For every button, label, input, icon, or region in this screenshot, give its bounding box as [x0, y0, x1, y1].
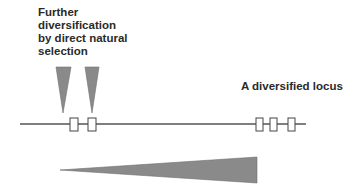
gene-box: [270, 118, 277, 131]
selection-pointer-triangle: [85, 67, 99, 113]
gene-box: [70, 118, 78, 131]
selection-pointer-triangle: [56, 67, 71, 113]
gene-box: [256, 118, 263, 131]
locus-diagram: [0, 0, 356, 194]
gene-box: [288, 118, 295, 131]
gene-box: [88, 118, 96, 131]
diversity-gradient-wedge: [60, 157, 257, 183]
